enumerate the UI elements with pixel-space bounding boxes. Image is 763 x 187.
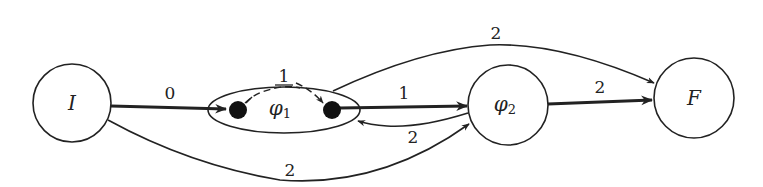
inner-state-out xyxy=(323,101,341,119)
node-label: F xyxy=(686,86,702,110)
node-subscript: 1 xyxy=(283,106,291,121)
node-label: I xyxy=(67,91,77,115)
edge-weight-label: 1 xyxy=(399,83,410,103)
edge-weight-label: 2 xyxy=(408,127,419,147)
inner-state-in xyxy=(229,101,247,119)
node-phi2: φ2 xyxy=(468,65,548,145)
edge-weight-label: 0 xyxy=(165,83,176,103)
edge-phi1-internal: 1 xyxy=(245,66,323,103)
svg-text:φ1: φ1 xyxy=(269,96,291,121)
edge-weight-label: 2 xyxy=(491,23,502,43)
edge-weight-label: 2 xyxy=(285,160,296,180)
node-I: I xyxy=(33,64,111,142)
edge-weight-label: 1 xyxy=(279,66,290,86)
edge-phi1-to-phi2: 1 xyxy=(340,83,467,108)
edge-phi2-to-phi1: 2 xyxy=(358,113,468,147)
diagram-canvas: 0 1 1 2 2 2 2 I φ1 xyxy=(0,0,763,187)
node-label: φ xyxy=(269,96,283,120)
edge-weight-label: 2 xyxy=(595,77,606,97)
edge-phi2-to-F: 2 xyxy=(548,77,652,104)
node-label: φ xyxy=(494,92,508,116)
node-subscript: 2 xyxy=(508,102,516,117)
node-F: F xyxy=(654,58,734,138)
node-phi1: φ1 xyxy=(208,87,360,133)
